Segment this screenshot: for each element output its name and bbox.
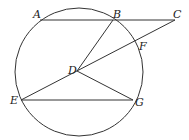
label-c: C xyxy=(173,8,182,21)
label-g: G xyxy=(135,96,144,109)
label-b: B xyxy=(112,8,121,21)
segment-dg xyxy=(77,71,133,100)
label-e: E xyxy=(9,94,18,107)
segment-bd xyxy=(77,20,113,71)
segment-ce xyxy=(21,20,175,100)
geometry-diagram: A B C D E F G xyxy=(0,0,189,140)
label-d: D xyxy=(67,64,77,77)
label-a: A xyxy=(32,8,41,21)
label-f: F xyxy=(138,40,147,53)
